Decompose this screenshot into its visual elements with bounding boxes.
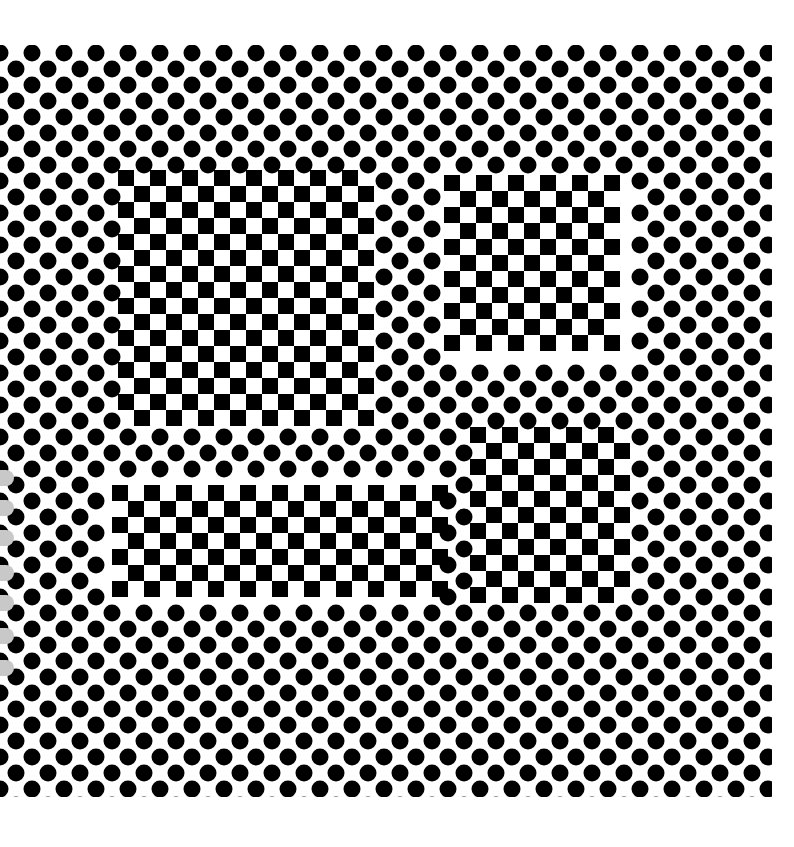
dot	[56, 461, 73, 478]
dot	[472, 653, 489, 670]
dot	[184, 685, 201, 702]
dot	[168, 605, 185, 622]
dot	[392, 189, 409, 206]
dot	[664, 173, 681, 190]
dot	[408, 749, 425, 766]
dot	[280, 653, 297, 670]
dot	[8, 189, 25, 206]
dot	[152, 749, 169, 766]
dot	[424, 221, 441, 238]
dot	[24, 109, 41, 126]
dot	[408, 621, 425, 638]
dot	[360, 157, 377, 174]
dot	[184, 749, 201, 766]
dot	[8, 413, 25, 430]
dot	[712, 477, 729, 494]
dot	[72, 733, 89, 750]
dot	[424, 413, 441, 430]
dot	[664, 365, 681, 382]
dot	[568, 77, 585, 94]
left-edge-shadow	[0, 430, 16, 730]
dot	[232, 765, 249, 782]
dot	[168, 669, 185, 686]
dot	[680, 573, 697, 590]
dot	[440, 717, 457, 734]
dot	[360, 605, 377, 622]
dot	[696, 429, 713, 446]
dot	[744, 637, 761, 654]
dot	[296, 157, 313, 174]
dot	[664, 653, 681, 670]
dot	[680, 765, 697, 782]
dot	[664, 333, 681, 350]
dot	[568, 781, 585, 798]
dot	[56, 237, 73, 254]
dot	[72, 381, 89, 398]
shadow-pill	[0, 565, 14, 581]
shadow-pill	[0, 660, 14, 676]
dot	[744, 189, 761, 206]
dot	[728, 365, 745, 382]
dot	[648, 637, 665, 654]
dot	[232, 61, 249, 78]
dot	[40, 157, 57, 174]
dot	[728, 109, 745, 126]
dot	[696, 109, 713, 126]
dot	[392, 413, 409, 430]
dot	[24, 685, 41, 702]
dot	[328, 701, 345, 718]
dot	[8, 93, 25, 110]
dot	[680, 541, 697, 558]
dot	[696, 717, 713, 734]
dot	[632, 557, 649, 574]
dot	[456, 125, 473, 142]
dot	[664, 77, 681, 94]
dot	[632, 461, 649, 478]
dot	[408, 365, 425, 382]
dot	[392, 445, 409, 462]
dot	[632, 589, 649, 606]
dot	[120, 429, 137, 446]
dot	[664, 685, 681, 702]
dot	[328, 445, 345, 462]
dot	[56, 749, 73, 766]
dot	[24, 301, 41, 318]
dot	[360, 125, 377, 142]
dot	[552, 61, 569, 78]
dot	[408, 429, 425, 446]
dot	[216, 621, 233, 638]
dot	[8, 61, 25, 78]
dot	[72, 285, 89, 302]
dot	[680, 317, 697, 334]
dot	[328, 605, 345, 622]
dot	[424, 637, 441, 654]
dot	[536, 397, 553, 414]
dot	[520, 93, 537, 110]
dot	[440, 397, 457, 414]
dot	[632, 621, 649, 638]
dot	[648, 765, 665, 782]
dot	[8, 221, 25, 238]
dot	[408, 45, 425, 62]
dot	[376, 173, 393, 190]
dot	[680, 701, 697, 718]
dot	[88, 237, 105, 254]
dot	[728, 781, 745, 798]
dot	[552, 701, 569, 718]
dot	[72, 765, 89, 782]
dot	[376, 621, 393, 638]
dot	[728, 269, 745, 286]
dot	[728, 77, 745, 94]
dot	[488, 93, 505, 110]
dot	[88, 781, 105, 798]
dot	[88, 45, 105, 62]
dot	[104, 637, 121, 654]
dot	[584, 125, 601, 142]
dot	[632, 205, 649, 222]
dot	[632, 781, 649, 798]
dot	[264, 733, 281, 750]
dot	[40, 701, 57, 718]
dot	[616, 733, 633, 750]
dot	[680, 413, 697, 430]
dot	[440, 749, 457, 766]
